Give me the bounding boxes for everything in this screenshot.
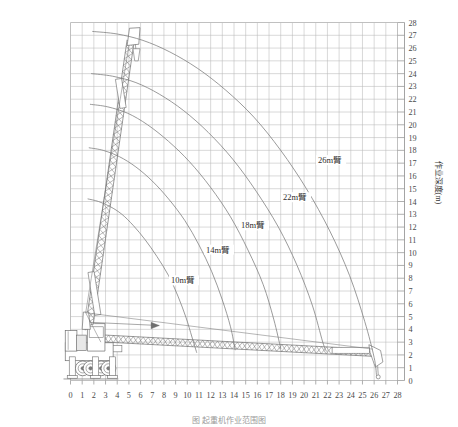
y-tick-label: 24 <box>409 70 417 79</box>
y-tick-label: 23 <box>409 82 417 91</box>
outrigger <box>93 357 99 376</box>
x-tick-label: 20 <box>300 391 308 400</box>
crane-working-range-chart: 0123456789101112131415161718192021222324… <box>0 0 458 427</box>
x-tick-label: 1 <box>80 391 84 400</box>
x-tick-label: 10 <box>183 391 191 400</box>
x-tick-label: 12 <box>207 391 215 400</box>
cab-window <box>89 327 103 338</box>
x-tick-label: 28 <box>393 391 401 400</box>
x-tick-label: 18 <box>277 391 285 400</box>
y-tick-label: 17 <box>409 159 417 168</box>
y-tick-label: 3 <box>409 338 413 347</box>
y-tick-label: 21 <box>409 108 417 117</box>
outrigger-pad <box>108 376 118 379</box>
x-tick-label: 23 <box>335 391 343 400</box>
x-tick-label: 26 <box>370 391 378 400</box>
x-tick-label: 11 <box>195 391 203 400</box>
x-tick-label: 13 <box>218 391 226 400</box>
y-tick-label: 25 <box>409 57 417 66</box>
x-tick-label: 27 <box>382 391 390 400</box>
y-tick-label: 28 <box>409 19 417 28</box>
x-tick-label: 6 <box>139 391 143 400</box>
x-tick-label: 9 <box>174 391 178 400</box>
y-tick-label: 27 <box>409 31 417 40</box>
y-tick-label: 5 <box>409 313 413 322</box>
y-tick-label: 19 <box>409 134 417 143</box>
y-tick-label: 11 <box>409 236 417 245</box>
y-tick-label: 8 <box>409 274 413 283</box>
chart-canvas: 0123456789101112131415161718192021222324… <box>0 0 458 427</box>
y-tick-label: 20 <box>409 121 417 130</box>
boom-label-14m: 14m臂 <box>206 245 230 255</box>
x-tick-label: 3 <box>103 391 107 400</box>
y-tick-label: 15 <box>409 185 417 194</box>
boom-label-10m: 10m臂 <box>171 275 195 285</box>
outrigger <box>69 357 75 376</box>
x-tick-label: 19 <box>288 391 296 400</box>
figure-caption: 图 起重机作业范围图 <box>192 415 266 425</box>
outrigger <box>110 357 116 376</box>
x-tick-label: 17 <box>265 391 273 400</box>
boom-label-18m: 18m臂 <box>241 220 265 230</box>
y-tick-label: 10 <box>409 249 417 258</box>
x-tick-label: 5 <box>127 391 131 400</box>
a-frame-mast <box>82 312 90 329</box>
y-tick-label: 6 <box>409 300 413 309</box>
y-axis-title: 作业深度(m) <box>434 161 444 205</box>
boom-label-22m: 22m臂 <box>283 192 307 202</box>
counterweight-block <box>65 331 77 351</box>
y-tick-label: 12 <box>409 223 417 232</box>
x-tick-label: 2 <box>92 391 96 400</box>
y-tick-label: 26 <box>409 44 417 53</box>
y-tick-label: 22 <box>409 95 417 104</box>
x-tick-label: 14 <box>230 391 238 400</box>
x-tick-label: 21 <box>312 391 320 400</box>
x-tick-label: 0 <box>68 391 72 400</box>
x-tick-label: 4 <box>115 391 119 400</box>
outrigger-pad <box>67 376 77 379</box>
y-tick-label: 13 <box>409 210 417 219</box>
x-tick-label: 15 <box>242 391 250 400</box>
x-tick-label: 7 <box>150 391 154 400</box>
x-tick-label: 25 <box>358 391 366 400</box>
y-tick-label: 9 <box>409 261 413 270</box>
y-tick-label: 16 <box>409 172 417 181</box>
y-tick-label: 18 <box>409 146 417 155</box>
engine-hood <box>76 335 86 350</box>
y-tick-label: 14 <box>409 198 417 207</box>
y-tick-label: 0 <box>409 377 413 386</box>
outrigger-pad <box>91 376 101 379</box>
wheel-hub <box>89 367 93 371</box>
chart-background <box>0 0 458 427</box>
y-tick-label: 2 <box>409 351 413 360</box>
x-tick-label: 22 <box>323 391 331 400</box>
y-tick-label: 7 <box>409 287 413 296</box>
y-tick-label: 4 <box>409 325 413 334</box>
y-tick-label: 1 <box>409 364 413 373</box>
boom-label-26m: 26m臂 <box>318 155 342 165</box>
x-tick-label: 8 <box>162 391 166 400</box>
x-tick-label: 16 <box>253 391 261 400</box>
x-tick-label: 24 <box>347 391 355 400</box>
